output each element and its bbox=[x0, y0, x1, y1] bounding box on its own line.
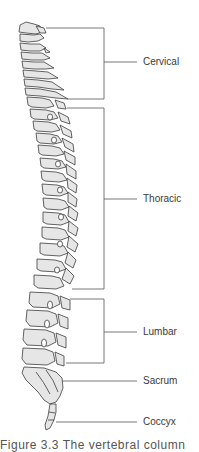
sacrum bbox=[22, 367, 63, 404]
label-cervical: Cervical bbox=[143, 56, 179, 68]
cervical-vertebrae bbox=[19, 22, 68, 99]
label-sacrum: Sacrum bbox=[143, 375, 177, 387]
coccyx bbox=[45, 404, 56, 430]
thoracic-vertebrae bbox=[27, 97, 78, 289]
lumbar-vertebrae bbox=[22, 292, 70, 366]
thoracic-bracket bbox=[67, 108, 137, 289]
label-thoracic: Thoracic bbox=[143, 193, 181, 205]
label-coccyx: Coccyx bbox=[143, 416, 176, 428]
vertebral-column-illustration bbox=[19, 22, 78, 430]
figure-caption: Figure 3.3 The vertebral column bbox=[0, 438, 185, 452]
label-lumbar: Lumbar bbox=[143, 326, 177, 338]
lumbar-bracket bbox=[66, 299, 137, 363]
